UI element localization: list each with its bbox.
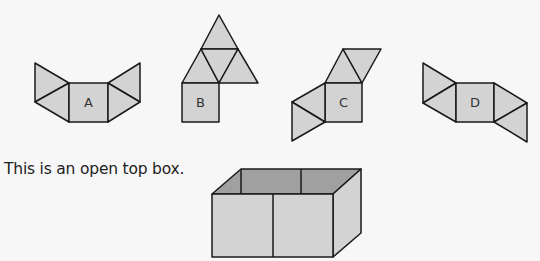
net-c-label: C (339, 95, 348, 110)
net-d: D (423, 63, 527, 142)
net-c: C (292, 49, 381, 141)
open-top-box (212, 169, 361, 257)
net-b: B (182, 15, 258, 122)
diagram-canvas: A B C D (0, 0, 540, 261)
net-d-label: D (470, 95, 480, 110)
net-a-label: A (84, 95, 93, 110)
net-a: A (35, 63, 140, 122)
caption-text: This is an open top box. (4, 160, 184, 178)
net-b-label: B (196, 95, 205, 110)
net-b-triangle (201, 15, 238, 49)
